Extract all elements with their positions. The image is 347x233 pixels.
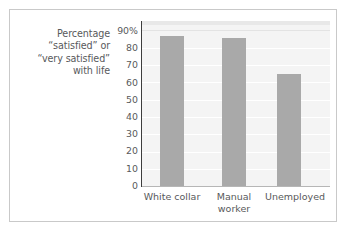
- y-axis-tick-labels: 90% 80 70 60 50 40 30 20 10 0: [104, 0, 138, 233]
- y-tick-0: 0: [108, 181, 138, 191]
- y-tick-10: 10: [108, 164, 138, 174]
- bar-manual-worker: [222, 38, 246, 187]
- bar-unemployed: [277, 74, 301, 186]
- y-tick-50: 50: [108, 95, 138, 105]
- x-axis-line: [142, 186, 330, 187]
- y-axis-line: [141, 21, 142, 187]
- plot-area: [142, 21, 330, 186]
- y-axis-title: Percentage “satisfied” or “very satisfie…: [14, 28, 110, 78]
- y-tick-30: 30: [108, 129, 138, 139]
- gridline-90: [142, 30, 330, 31]
- y-tick-40: 40: [108, 112, 138, 122]
- plot-top-band: [142, 21, 330, 25]
- y-tick-90: 90%: [108, 26, 138, 36]
- y-tick-80: 80: [108, 43, 138, 53]
- x-label-unemployed: Unemployed: [256, 191, 334, 203]
- y-tick-20: 20: [108, 146, 138, 156]
- y-tick-60: 60: [108, 78, 138, 88]
- y-tick-70: 70: [108, 60, 138, 70]
- bar-white-collar: [160, 36, 184, 186]
- chart-figure: Percentage “satisfied” or “very satisfie…: [0, 0, 347, 233]
